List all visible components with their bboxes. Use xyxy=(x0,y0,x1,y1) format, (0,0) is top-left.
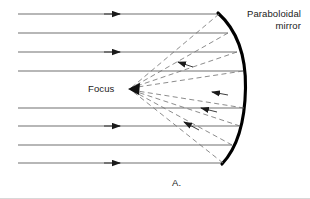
mirror-label: Paraboloidalmirror xyxy=(231,8,301,31)
reflected-ray-arrow xyxy=(212,92,228,95)
reflected-ray xyxy=(131,33,228,88)
mirror-label-line2: mirror xyxy=(276,20,301,31)
reflected-ray-arrow xyxy=(178,62,193,67)
focus-point-marker xyxy=(128,83,140,95)
reflected-ray xyxy=(131,52,237,88)
reflected-ray-group xyxy=(131,14,244,163)
paraboloidal-mirror-arc xyxy=(218,13,246,164)
reflected-ray-arrow xyxy=(201,108,217,112)
reflected-ray xyxy=(131,90,223,163)
focus-label: Focus xyxy=(88,83,114,95)
panel-caption: A. xyxy=(172,177,181,189)
paraboloidal-mirror-figure: Paraboloidalmirror Focus A. xyxy=(0,0,310,199)
mirror-label-line1: Paraboloidal xyxy=(247,8,301,19)
